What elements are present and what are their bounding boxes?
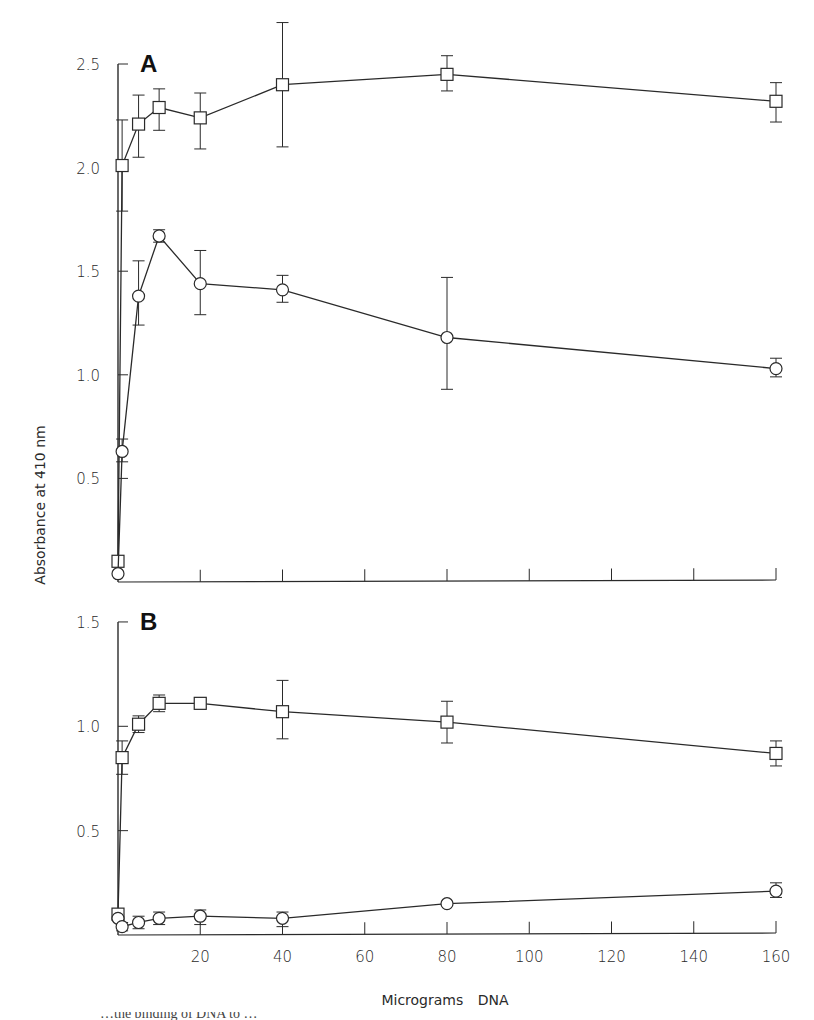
circle-marker: [277, 912, 289, 924]
square-marker: [194, 697, 206, 709]
circle-marker: [770, 363, 782, 375]
circle-marker: [194, 910, 206, 922]
x-tick-label: 120: [597, 948, 626, 966]
square-marker: [277, 706, 289, 718]
y-tick-label: 1.0: [76, 718, 100, 736]
circle-marker: [153, 912, 165, 924]
square-marker: [153, 697, 165, 709]
circle-marker: [116, 445, 128, 457]
circle-marker: [116, 921, 128, 933]
x-tick-label: 140: [679, 948, 708, 966]
square-marker: [441, 716, 453, 728]
square-marker: [116, 752, 128, 764]
x-tick-label: 160: [762, 948, 791, 966]
x-axis-title: Micrograms DNA: [381, 992, 509, 1008]
y-tick-label: 1.5: [76, 263, 100, 281]
x-tick-label: 40: [273, 948, 292, 966]
square-marker: [770, 95, 782, 107]
circle-marker: [770, 885, 782, 897]
panel-b: 0.51.01.5B: [76, 608, 782, 935]
square-marker: [770, 747, 782, 759]
square-marker: [133, 718, 145, 730]
square-marker: [277, 79, 289, 91]
caption-fragment: …the binding of DNA to …: [0, 1012, 814, 1020]
circle-marker: [133, 290, 145, 302]
circle-marker: [133, 916, 145, 928]
y-tick-label: 0.5: [76, 823, 100, 841]
x-tick-label: 60: [355, 948, 374, 966]
square-marker: [133, 118, 145, 130]
x-tick-label: 100: [515, 948, 544, 966]
y-tick-label: 2.5: [76, 56, 100, 74]
panel-a: 0.51.01.52.02.5A: [76, 23, 782, 582]
figure: 0.51.01.52.02.5A 0.51.01.5B 204060801001…: [0, 0, 814, 1020]
y-tick-label: 0.5: [76, 470, 100, 488]
y-tick-label: 1.5: [76, 614, 100, 632]
y-tick-label: 1.0: [76, 367, 100, 385]
square-marker: [194, 112, 206, 124]
caption-text: …the binding of DNA to …: [0, 1012, 814, 1020]
x-tick-label: 20: [191, 948, 210, 966]
circle-marker: [441, 898, 453, 910]
square-marker: [153, 102, 165, 114]
panel-label: A: [140, 50, 157, 77]
y-axis-title: Absorbance at 410 nm: [32, 425, 48, 584]
x-tick-labels: 20406080100120140160: [191, 948, 791, 966]
square-marker: [441, 68, 453, 80]
circle-marker: [194, 278, 206, 290]
circle-marker: [153, 230, 165, 242]
circle-marker: [277, 284, 289, 296]
circle-marker: [441, 332, 453, 344]
x-tick-label: 80: [437, 948, 456, 966]
y-tick-label: 2.0: [76, 160, 100, 178]
circle-marker: [112, 568, 124, 580]
square-marker: [116, 160, 128, 172]
panel-label: B: [140, 608, 157, 635]
